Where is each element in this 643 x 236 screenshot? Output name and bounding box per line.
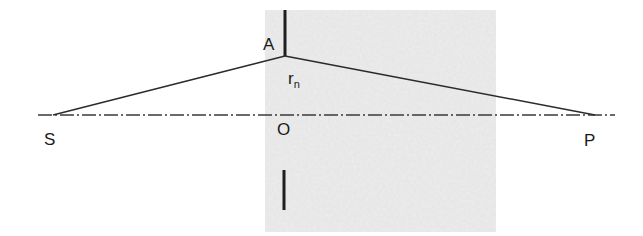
label-r: r: [288, 69, 294, 88]
diagram-graphics: [0, 0, 643, 236]
label-A: A: [263, 36, 274, 53]
ray-source-to-edge: [53, 56, 285, 115]
label-O: O: [277, 121, 290, 138]
label-r-subscript: n: [294, 78, 300, 90]
label-r-n: rn: [288, 70, 300, 87]
diagram-canvas: A rn S O P: [0, 0, 643, 236]
shaded-region-texture: [265, 10, 496, 232]
label-P: P: [584, 132, 595, 149]
label-S: S: [44, 131, 55, 148]
